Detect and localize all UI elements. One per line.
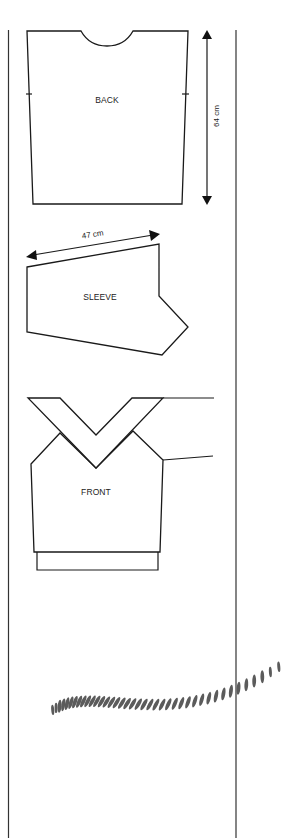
pattern-schematic: BACK 64 cm SLEEVE 47 cm FRONT bbox=[0, 0, 286, 838]
back-length-dimension: 64 cm bbox=[202, 30, 221, 205]
back-outline bbox=[27, 31, 188, 204]
rope-strand bbox=[198, 693, 205, 707]
rope-strand bbox=[184, 696, 192, 710]
rope-strand bbox=[55, 703, 58, 713]
rope-strand bbox=[228, 685, 233, 698]
arrow-left-icon bbox=[26, 250, 37, 260]
rope-strand bbox=[51, 705, 55, 716]
rope-strand bbox=[191, 694, 199, 708]
sleeve-label: SLEEVE bbox=[83, 292, 117, 302]
rope-strand bbox=[205, 691, 212, 705]
arrow-down-icon bbox=[202, 196, 212, 205]
rope-strand bbox=[170, 697, 179, 710]
sleeve-length-label: 47 cm bbox=[81, 228, 104, 240]
arrow-right-icon bbox=[149, 230, 160, 241]
back-label: BACK bbox=[95, 95, 119, 105]
rope-strand bbox=[177, 696, 185, 709]
rope-strand bbox=[260, 670, 264, 683]
front-piece: FRONT bbox=[28, 398, 214, 570]
rope-cable-illustration bbox=[51, 661, 281, 715]
back-piece: BACK bbox=[26, 31, 189, 204]
rope-strand bbox=[220, 687, 226, 700]
sleeve-piece: SLEEVE bbox=[27, 244, 188, 355]
front-rib-band bbox=[37, 552, 158, 570]
rope-strand bbox=[277, 661, 281, 672]
rope-strand bbox=[236, 682, 241, 695]
rope-strand bbox=[213, 689, 219, 703]
rope-strand bbox=[252, 674, 256, 687]
rope-strand bbox=[244, 678, 249, 691]
back-length-label: 64 cm bbox=[212, 105, 221, 127]
rope-strand bbox=[269, 667, 273, 678]
front-sleeve-bottom-line bbox=[163, 456, 213, 460]
arrow-up-icon bbox=[202, 30, 212, 39]
front-label: FRONT bbox=[81, 487, 111, 497]
